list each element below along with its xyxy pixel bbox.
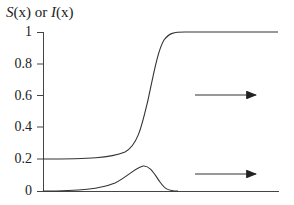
series-I-curve bbox=[43, 166, 178, 191]
plot-area bbox=[0, 0, 294, 205]
